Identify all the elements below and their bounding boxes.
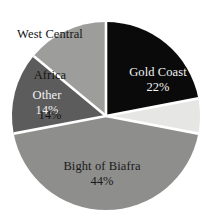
west-central-africa-label: West Central Africa 14% — [2, 1, 98, 150]
pie-chart: Gold Coast 22% Other 14% Bight of Biafra… — [0, 0, 204, 219]
bight-of-biafra-label-percent: 44% — [90, 174, 113, 188]
gold-coast-label-percent: 22% — [146, 80, 169, 94]
gold-coast-label-name: Gold Coast — [129, 65, 187, 79]
west-central-africa-label-percent: 14% — [2, 109, 98, 123]
bight-of-biafra-label-name: Bight of Biafra — [63, 159, 141, 173]
west-central-africa-label-line2: Africa — [2, 69, 98, 83]
west-central-africa-label-line1: West Central — [2, 28, 98, 42]
